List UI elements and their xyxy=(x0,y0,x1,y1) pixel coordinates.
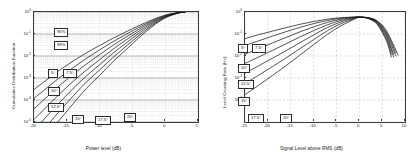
curve-annotation-label: 17.5° xyxy=(248,114,264,123)
x-tick-label: -5 xyxy=(334,123,338,128)
figure-container: -20-15-10-50510010-110-210-310-410-5 95%… xyxy=(0,0,415,156)
x-tick-mark xyxy=(164,119,165,121)
y-tick-mark xyxy=(33,77,35,78)
y-axis-title-lcr: Level Crossing Rate (Hz) xyxy=(222,57,227,108)
x-tick-label: -20 xyxy=(264,123,270,128)
x-tick-label: -15 xyxy=(287,123,293,128)
y-tick-mark xyxy=(33,99,35,100)
chart-panel-lcr: -25-20-15-10-5051010010-110-210-310-4 5°… xyxy=(208,0,415,156)
curve-annotation-label: 15° xyxy=(238,97,250,106)
y-tick-label: 10-4 xyxy=(23,96,31,102)
curve-annotation-label: 99% xyxy=(54,41,68,50)
curve-annotation-label: 95% xyxy=(54,28,68,37)
curve-annotation-label: 5° xyxy=(238,44,248,53)
plot-area-lcr xyxy=(244,11,406,123)
x-tick-mark xyxy=(381,119,382,121)
curve-annotation-label: 17.5° xyxy=(95,116,111,125)
y-axis-title-cdf: Cumulative Distribution Function xyxy=(11,43,16,109)
y-tick-mark xyxy=(33,11,35,12)
chart-panel-cdf: -20-15-10-50510010-110-210-310-410-5 95%… xyxy=(0,0,207,156)
x-tick-mark xyxy=(313,119,314,121)
curve-annotation-label: 5° xyxy=(48,69,58,78)
curve-annotation-label: 10° xyxy=(48,87,60,96)
x-tick-label: -15 xyxy=(63,123,69,128)
curves-lcr xyxy=(245,12,405,122)
x-tick-mark xyxy=(197,119,198,121)
x-tick-label: 10 xyxy=(402,123,407,128)
curve-annotation-label: 10° xyxy=(238,64,250,73)
y-tick-label: 10-1 xyxy=(234,30,242,36)
x-tick-mark xyxy=(404,119,405,121)
curve-annotation-label: 20° xyxy=(124,113,136,122)
curve-annotation-label: 20° xyxy=(280,114,292,123)
x-tick-mark xyxy=(358,119,359,121)
x-tick-label: 5 xyxy=(196,123,198,128)
x-tick-label: 0 xyxy=(163,123,165,128)
x-tick-mark xyxy=(335,119,336,121)
x-tick-mark xyxy=(244,119,245,121)
y-tick-mark xyxy=(244,11,246,12)
y-tick-label: 10-2 xyxy=(23,52,31,58)
y-tick-mark xyxy=(244,33,246,34)
y-tick-mark xyxy=(244,77,246,78)
x-tick-label: 5 xyxy=(380,123,382,128)
curve-annotation-label: 12.5° xyxy=(238,80,254,89)
x-tick-label: -10 xyxy=(309,123,315,128)
y-tick-mark xyxy=(244,55,246,56)
x-tick-label: -5 xyxy=(129,123,133,128)
x-axis-title-lcr: Signal Level above RMS (dB) xyxy=(208,146,415,151)
y-tick-label: 10-5 xyxy=(23,118,31,124)
x-tick-label: -25 xyxy=(241,123,247,128)
curve-annotation-label: 15° xyxy=(72,115,84,124)
y-tick-label: 100 xyxy=(24,8,31,14)
y-tick-mark xyxy=(33,33,35,34)
x-tick-mark xyxy=(267,119,268,121)
y-tick-mark xyxy=(33,55,35,56)
curve-annotation-label: 7.5° xyxy=(252,44,266,53)
y-tick-label: 100 xyxy=(235,8,242,14)
y-tick-mark xyxy=(33,121,35,122)
curve-annotation-label: 12.5° xyxy=(48,103,64,112)
y-tick-label: 10-3 xyxy=(23,74,31,80)
curve-annotation-label: 7.5° xyxy=(63,69,77,78)
x-tick-label: 0 xyxy=(357,123,359,128)
y-tick-label: 10-1 xyxy=(23,30,31,36)
x-axis-title-cdf: Power level (dB) xyxy=(0,146,207,151)
x-tick-mark xyxy=(66,119,67,121)
